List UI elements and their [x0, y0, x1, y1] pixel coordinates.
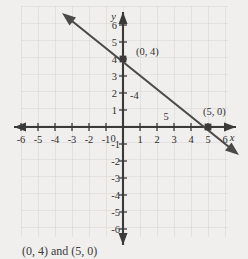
y-tick-label: -6 [111, 224, 120, 235]
run-annotation: 5 [163, 111, 168, 122]
y-tick-label: -3 [111, 173, 120, 184]
x-tick-label: -4 [51, 134, 60, 145]
point-label-y-intercept: (0, 4) [136, 46, 159, 58]
y-tick-label: 1 [112, 105, 117, 116]
x-tick-label: 1 [137, 134, 142, 145]
rise-annotation: -4 [130, 90, 139, 101]
x-tick-label: 2 [154, 134, 159, 145]
origin-label: 0 [110, 133, 115, 144]
point-label-x-intercept: (5, 0) [203, 106, 226, 118]
x-tick-label: -3 [68, 134, 77, 145]
y-tick-label: 5 [112, 37, 117, 48]
x-axis-label: x [229, 132, 235, 143]
x-tick-label: -2 [85, 134, 94, 145]
x-tick-label: 5 [205, 134, 210, 145]
y-tick-label: -5 [111, 207, 120, 218]
y-tick-label: 2 [112, 88, 117, 99]
point-marker-y-intercept [120, 56, 127, 63]
y-tick-label: 3 [112, 71, 117, 82]
point-marker-x-intercept [205, 124, 212, 131]
y-axis-label: y [110, 11, 116, 22]
x-tick-label: -1 [102, 134, 111, 145]
x-tick-label: -6 [17, 134, 26, 145]
x-tick-label: 4 [188, 134, 194, 145]
x-tick-label: -5 [34, 134, 43, 145]
y-tick-label: -2 [111, 156, 120, 167]
y-tick-label: -4 [111, 190, 120, 201]
answer-caption: (0, 4) and (5, 0) [22, 244, 97, 259]
x-tick-label: 3 [171, 134, 176, 145]
